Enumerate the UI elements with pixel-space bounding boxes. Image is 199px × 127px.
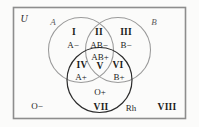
region-vi-blood-type: B+	[113, 73, 124, 82]
region-vi-roman: VI	[113, 61, 124, 71]
region-vii-roman: VII	[94, 103, 109, 113]
region-iv-blood-type: A+	[75, 73, 87, 82]
set-b-label: B	[151, 18, 157, 27]
venn-diagram: U A B Rh I A− II AB− III B− IV A+ AB+ V …	[0, 0, 199, 127]
set-a-label: A	[50, 18, 56, 27]
region-iii-roman: III	[120, 28, 132, 38]
universal-set-label: U	[20, 14, 27, 24]
region-i-blood-type: A−	[67, 41, 79, 50]
region-v-roman: V	[96, 62, 103, 72]
region-i-roman: I	[72, 28, 76, 38]
region-iv-roman: IV	[77, 61, 88, 71]
set-rh-label: Rh	[126, 104, 137, 113]
region-iii-blood-type: B−	[120, 41, 131, 50]
region-viii-roman: VIII	[158, 103, 177, 113]
region-vii-blood-type: O+	[94, 88, 106, 97]
region-ii-roman: II	[95, 28, 103, 38]
region-v-blood-type: AB+	[91, 53, 109, 62]
region-ii-blood-type: AB−	[90, 41, 108, 50]
region-viii-blood-type: O−	[31, 102, 43, 111]
